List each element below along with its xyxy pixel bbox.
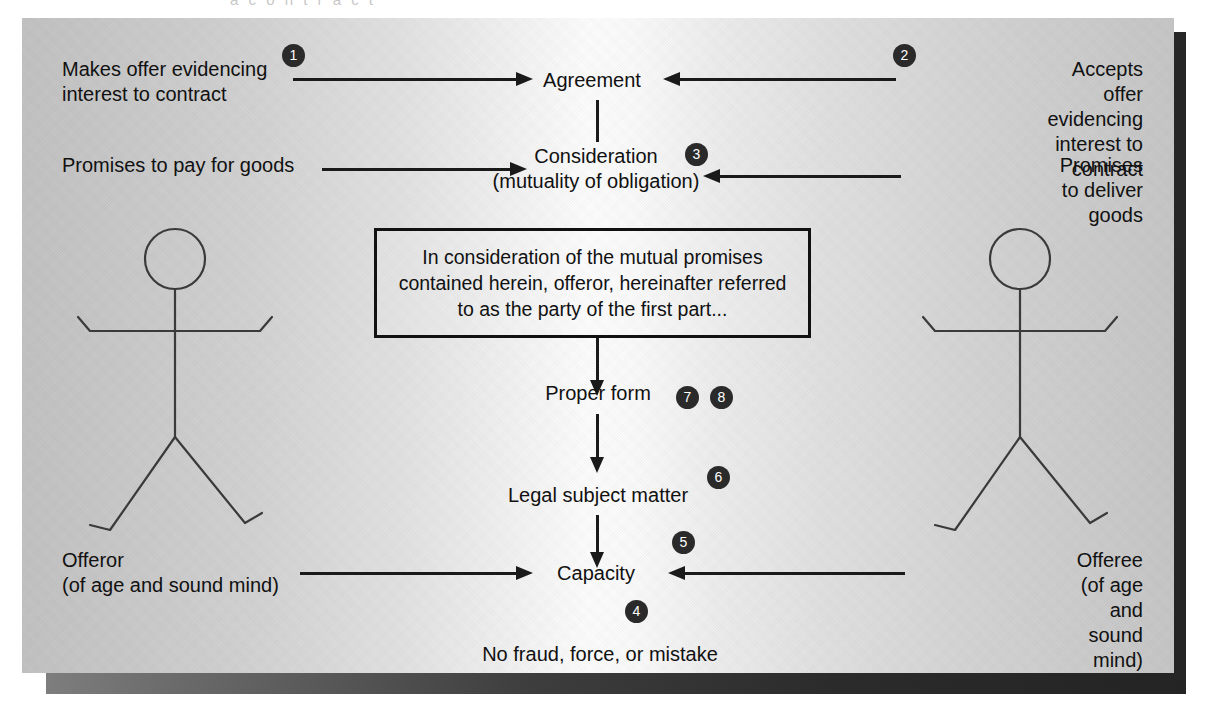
arrow-offeror-to-capacity (300, 572, 518, 575)
badge-3: 3 (685, 143, 708, 166)
node-consideration: Consideration (mutuality of obligation) (493, 144, 700, 194)
offeror-figure (70, 225, 300, 535)
node-no-fraud-force-or-mistake: No fraud, force, or mistake (482, 642, 718, 667)
contract-text: In consideration of the mutual promises … (385, 244, 801, 322)
badge-6: 6 (707, 466, 730, 489)
arrow-proper-form-to-legal-subject-matter (596, 414, 599, 459)
arrow-offeree-to-capacity (683, 572, 905, 575)
arrow-makes-offer-to-agreement (293, 78, 518, 81)
label-offeror: Offeror (of age and sound mind) (62, 548, 279, 598)
node-proper-form: Proper form (545, 381, 651, 406)
arrowhead-icon (663, 72, 680, 86)
node-legal-subject-matter: Legal subject matter (508, 483, 688, 508)
label-promises-to-pay: Promises to pay for goods (62, 153, 294, 178)
arrowhead-icon (590, 457, 604, 473)
badge-2: 2 (893, 44, 916, 67)
diagram-canvas: a c o n t r a c t Makes offer evidencing… (0, 0, 1205, 721)
arrow-promises-to-pay-to-consideration (322, 168, 512, 171)
badge-5: 5 (672, 531, 695, 554)
arrow-promises-to-deliver-to-consideration (718, 175, 901, 178)
arrowhead-icon (703, 169, 720, 183)
arrowhead-icon (516, 566, 533, 580)
arrowhead-icon (516, 72, 533, 86)
badge-1: 1 (282, 44, 305, 67)
badge-8: 8 (710, 386, 733, 409)
badge-4: 4 (625, 600, 648, 623)
offeree-figure (905, 225, 1135, 535)
arrow-contract-to-proper-form (596, 338, 599, 382)
node-agreement: Agreement (543, 68, 641, 93)
arrow-legal-subject-matter-to-capacity (596, 515, 599, 554)
badge-7: 7 (676, 386, 699, 409)
label-promises-to-deliver: Promises to deliver goods (1060, 153, 1143, 228)
node-capacity: Capacity (557, 561, 635, 586)
label-makes-offer: Makes offer evidencing interest to contr… (62, 57, 267, 107)
contract-text-box: In consideration of the mutual promises … (374, 228, 811, 338)
arrowhead-icon (668, 566, 685, 580)
cutoff-caption-text: a c o n t r a c t (0, 0, 1205, 9)
label-offeree: Offeree (of age and sound mind) (1077, 548, 1143, 673)
connector-agreement-consideration (596, 100, 599, 142)
arrow-accepts-offer-to-agreement (678, 78, 896, 81)
